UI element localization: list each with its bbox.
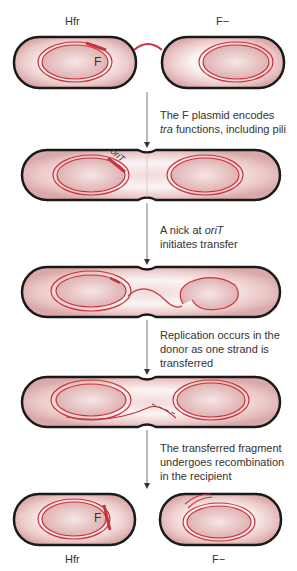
step-1-caption: The F plasmid encodes tra functions, inc… [160, 108, 286, 136]
conjugation-diagram [0, 0, 297, 571]
f-minus-label-bottom: F− [212, 553, 225, 565]
pilus [134, 44, 162, 50]
f-plasmid-label-bottom: F [94, 511, 101, 525]
f-minus-label-top: F− [216, 15, 229, 27]
row-3 [22, 267, 280, 317]
step-3-caption: Replication occurs in the donor as one s… [160, 328, 280, 370]
row-2 [22, 150, 280, 200]
f-plasmid-label-top: F [94, 55, 101, 69]
row-4 [22, 377, 280, 427]
hfr-label-top: Hfr [65, 15, 80, 27]
row-1 [14, 37, 284, 88]
row-5 [14, 494, 281, 545]
hfr-label-bottom: Hfr [65, 553, 80, 565]
step-4-caption: The transferred fragment undergoes recom… [160, 441, 284, 483]
step-2-caption: A nick at oriT initiates transfer [160, 223, 238, 251]
